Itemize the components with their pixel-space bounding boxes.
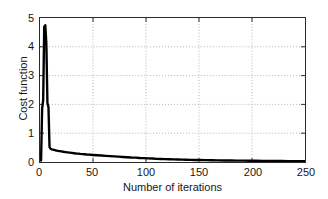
x-gridlines <box>93 18 252 162</box>
x-tick-label-200: 200 <box>233 167 273 178</box>
x-tick-label-50: 50 <box>72 167 112 178</box>
cost-function-curve <box>40 18 305 162</box>
axis-tick-marks <box>40 18 305 162</box>
x-axis-title: Number of iterations <box>39 182 306 193</box>
x-tick-label-150: 150 <box>179 167 219 178</box>
y-tick-label-5: 5 <box>2 13 34 24</box>
series-line-cost-function <box>41 25 305 161</box>
x-tick-label-0: 0 <box>19 167 59 178</box>
y-axis-title: Cost function <box>18 29 29 149</box>
figure-canvas: 5 4 3 2 1 0 <box>0 0 328 199</box>
plot-area <box>39 17 306 163</box>
x-tick-label-250: 250 <box>286 167 326 178</box>
y-gridlines <box>40 47 305 133</box>
x-tick-label-100: 100 <box>126 167 166 178</box>
